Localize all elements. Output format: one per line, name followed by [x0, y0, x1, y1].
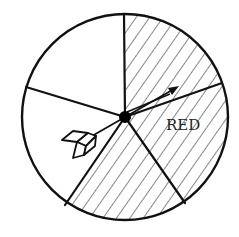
spinner-diagram: RED: [0, 0, 239, 237]
divider-top: [124, 14, 125, 117]
arrow-fletching-icon: [62, 131, 96, 158]
spinner-hub: [119, 111, 131, 123]
red-label: RED: [166, 116, 200, 134]
spinner-svg: RED: [0, 0, 239, 237]
divider-left: [26, 87, 125, 117]
